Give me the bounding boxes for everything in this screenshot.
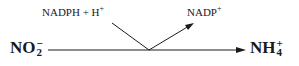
cofactor-out-arrowhead-icon	[185, 23, 194, 30]
product-ammonium: NH+4	[250, 38, 283, 58]
cofactor-in-line	[112, 23, 149, 50]
cofactor-out-label: NADP+	[187, 6, 221, 18]
main-arrowhead-icon	[236, 47, 246, 53]
reactant-nitrite: NO−2	[10, 38, 43, 58]
cofactor-in-label: NADPH + H+	[42, 6, 104, 18]
cofactor-out-line	[149, 26, 189, 50]
